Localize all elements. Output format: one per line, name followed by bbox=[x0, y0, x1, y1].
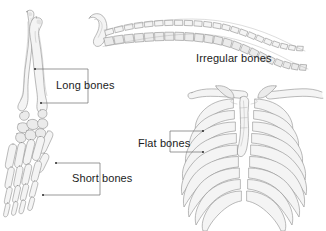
lumbar-vertebrae bbox=[104, 32, 164, 46]
skeleton-illustration bbox=[0, 0, 326, 231]
hand-bones-icon bbox=[4, 119, 53, 217]
bone-types-figure: Long bones Short bones Irregular bones F… bbox=[0, 0, 326, 231]
forearm-bones-icon bbox=[18, 10, 47, 120]
label-long-bones: Long bones bbox=[56, 79, 115, 91]
thoracic-vertebrae bbox=[165, 32, 223, 45]
label-flat-bones: Flat bones bbox=[138, 137, 190, 149]
label-short-bones: Short bones bbox=[72, 172, 132, 184]
thoracic-processes bbox=[165, 20, 221, 29]
ribcage-icon bbox=[181, 86, 322, 231]
ribs-right bbox=[247, 99, 307, 231]
ribs-left bbox=[181, 99, 241, 231]
label-irregular-bones: Irregular bones bbox=[196, 52, 272, 64]
